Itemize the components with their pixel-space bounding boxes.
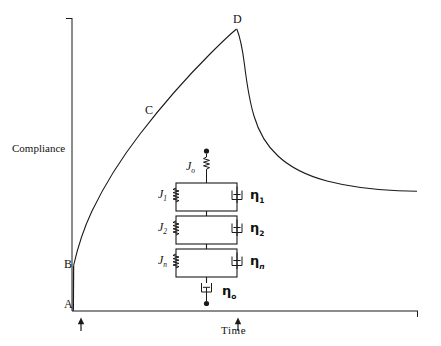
figure-vector-layer bbox=[0, 0, 441, 346]
spring-Jn-subscript: n bbox=[163, 260, 167, 269]
spring-J2-subscript: 2 bbox=[163, 227, 167, 236]
x-axis bbox=[72, 311, 418, 317]
spring-J0-label: Jo bbox=[186, 160, 195, 175]
dashpot-eta0-label: ηo bbox=[222, 284, 236, 300]
dashpot-etan-subscript: n bbox=[259, 262, 264, 271]
spring-J1 bbox=[173, 188, 179, 202]
spring-J1-subscript: 1 bbox=[163, 194, 167, 203]
dashpot-etan-symbol: η bbox=[250, 253, 259, 268]
dashpot-etan-label: ηn bbox=[250, 254, 265, 270]
voigt-unit-n bbox=[173, 249, 242, 283]
dashpot-eta0 bbox=[202, 283, 212, 301]
voigt-unit-1 bbox=[173, 183, 242, 216]
mechanical-model-inset bbox=[173, 148, 242, 306]
dashpot-eta0-symbol: η bbox=[222, 283, 231, 298]
x-axis-label: Time bbox=[221, 325, 246, 336]
dashpot-eta1-symbol: η bbox=[250, 187, 259, 202]
voigt-unit-2 bbox=[173, 216, 242, 249]
spring-J2-label: J2 bbox=[158, 221, 167, 236]
dashpot-eta1-label: η1 bbox=[250, 188, 264, 204]
spring-J0 bbox=[204, 157, 210, 183]
model-bottom-terminal bbox=[204, 301, 209, 306]
load-applied-arrow bbox=[78, 318, 84, 332]
dashpot-eta0-subscript: o bbox=[231, 292, 236, 301]
spring-J0-subscript: o bbox=[191, 166, 195, 175]
dashpot-eta2-label: η2 bbox=[250, 221, 264, 237]
dashpot-eta1 bbox=[232, 187, 242, 204]
point-label-a: A bbox=[64, 298, 73, 310]
dashpot-eta2-subscript: 2 bbox=[259, 229, 264, 238]
creep-compliance-figure: Compliance Time A B C D Jo J1 J2 Jn η1 η… bbox=[0, 0, 441, 346]
spring-J1-label: J1 bbox=[158, 188, 167, 203]
y-axis-label: Compliance bbox=[12, 143, 65, 154]
dashpot-eta2 bbox=[232, 220, 242, 237]
spring-J2 bbox=[173, 221, 179, 235]
spring-Jn-label: Jn bbox=[158, 254, 167, 269]
model-top-terminal bbox=[204, 148, 209, 157]
dashpot-etan bbox=[232, 253, 242, 270]
point-label-b: B bbox=[64, 258, 72, 270]
dashpot-eta2-symbol: η bbox=[250, 220, 259, 235]
dashpot-eta1-subscript: 1 bbox=[259, 196, 264, 205]
point-label-c: C bbox=[145, 104, 153, 116]
point-label-d: D bbox=[233, 13, 242, 25]
spring-Jn bbox=[173, 254, 179, 268]
creep-recovery-curve bbox=[73, 29, 417, 311]
